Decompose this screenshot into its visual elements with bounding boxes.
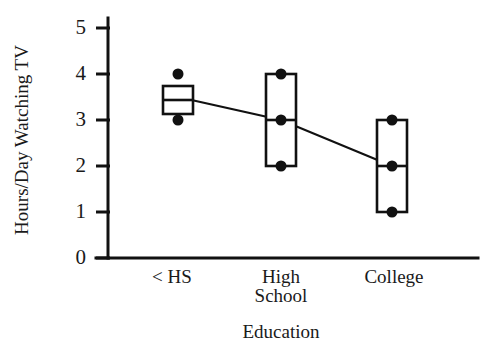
data-point-college-median	[387, 161, 398, 172]
data-point-high-school-upper	[276, 69, 287, 80]
data-point-lt-hs-upper	[173, 69, 184, 80]
data-point-college-upper	[387, 115, 398, 126]
x-label-high-school-line2: School	[255, 285, 308, 306]
x-label-lt-hs: < HS	[152, 266, 192, 287]
y-tick-label-3: 3	[76, 107, 87, 131]
y-tick-label-4: 4	[76, 61, 87, 85]
x-label-high-school-line1: High	[262, 266, 301, 287]
y-axis-title: Hours/Day Watching TV	[11, 45, 32, 235]
y-tick-label-1: 1	[76, 199, 87, 223]
box-group-college	[377, 115, 407, 218]
data-point-high-school-median	[276, 115, 287, 126]
data-point-college-lower	[387, 207, 398, 218]
boxplot-figure: 5 4 3 2 1 0 Hours/Day Watching TV	[0, 0, 502, 360]
box-group-lt-hs	[163, 69, 193, 126]
y-tick-label-0: 0	[76, 245, 87, 269]
data-point-high-school-lower	[276, 161, 287, 172]
x-axis-title: Education	[242, 321, 320, 342]
y-tick-label-2: 2	[76, 153, 87, 177]
box-group-high-school	[266, 69, 296, 172]
y-axis-tick-labels: 5 4 3 2 1 0	[76, 15, 87, 269]
x-axis-category-labels: < HS High School College	[152, 266, 423, 306]
x-label-college: College	[364, 266, 423, 287]
y-tick-label-5: 5	[76, 15, 87, 39]
data-point-lt-hs-lower	[173, 115, 184, 126]
chart-canvas: 5 4 3 2 1 0 Hours/Day Watching TV	[0, 0, 502, 360]
